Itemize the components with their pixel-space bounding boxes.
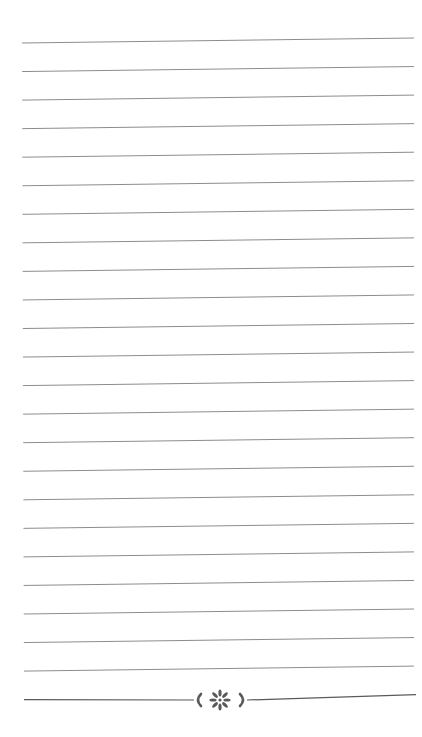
- petal-icon: [211, 691, 218, 698]
- flower-ornament-icon: [0, 0, 422, 737]
- petal-icon: [218, 689, 221, 696]
- notebook-page: [0, 0, 422, 737]
- left-bracket-icon: [198, 694, 201, 706]
- petal-icon: [223, 698, 230, 701]
- petal-icon: [211, 701, 218, 708]
- petal-icon: [209, 698, 216, 701]
- flower-center-icon: [218, 698, 221, 701]
- petal-icon: [221, 701, 228, 708]
- petal-icon: [218, 703, 221, 710]
- petal-icon: [221, 691, 228, 698]
- right-bracket-icon: [240, 694, 243, 706]
